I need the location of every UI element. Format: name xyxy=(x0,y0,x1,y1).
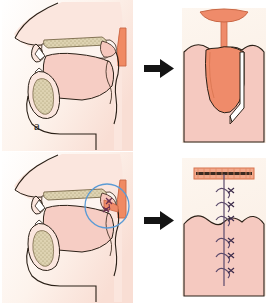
panel-label-a: a xyxy=(34,118,40,134)
right-arrow-icon xyxy=(144,59,174,78)
pharyngeal-flap xyxy=(206,47,245,113)
figure-row-b: b xyxy=(0,152,270,303)
transition-arrow-a xyxy=(142,55,176,83)
figure-row-a: a xyxy=(0,0,270,151)
sagittal-view-flap-elevation xyxy=(2,0,133,151)
posterior-view-flap-inset xyxy=(180,152,268,303)
posterior-view-flap-elevation xyxy=(180,0,268,151)
medical-figure-pharyngeal-flap: a xyxy=(0,0,270,303)
transition-arrow-b xyxy=(142,207,176,235)
right-arrow-icon xyxy=(144,211,174,230)
sagittal-view-flap-inset xyxy=(2,152,133,303)
